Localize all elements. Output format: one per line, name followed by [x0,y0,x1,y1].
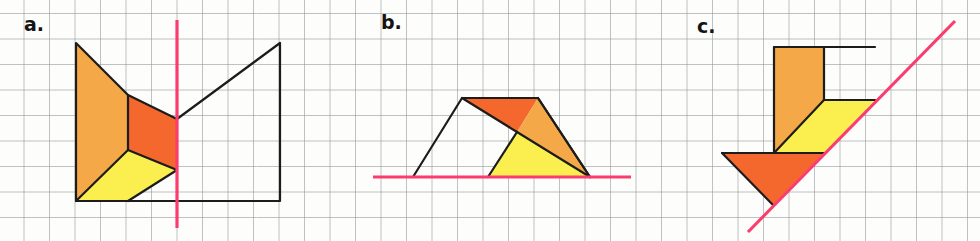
panel-label-b: b. [381,13,402,32]
red-orange-arrow-head [722,153,824,205]
panel-label-a: a. [24,15,44,34]
figure-panel-c [722,21,955,232]
worksheet-canvas: a. b. c. [0,0,980,241]
figures-layer [0,0,980,241]
panel-label-c: c. [697,17,715,36]
figure-panel-a [76,20,280,228]
figure-panel-b [373,98,631,177]
